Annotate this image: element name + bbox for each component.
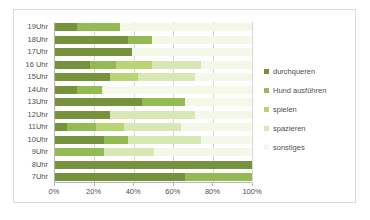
bar-segment — [55, 111, 110, 119]
y-axis-tick-label: 11Uhr — [14, 123, 52, 131]
bar-segment — [185, 98, 252, 106]
bar-segment — [195, 111, 252, 119]
bar-row — [55, 61, 252, 69]
x-axis-tick — [252, 183, 253, 186]
x-axis-tick-label: 80% — [205, 187, 220, 196]
bar-segment — [124, 123, 181, 131]
bar-segment — [104, 148, 153, 156]
bar-segment — [104, 136, 128, 144]
bar-row — [55, 161, 252, 169]
bar-segment — [90, 61, 116, 69]
x-axis-tick-label: 60% — [165, 187, 180, 196]
bar-segment — [201, 61, 252, 69]
bar-segment — [55, 73, 110, 81]
bar-segment — [55, 23, 77, 31]
bar-segment — [110, 73, 138, 81]
bar-segment — [55, 36, 128, 44]
x-axis-tick — [94, 183, 95, 186]
x-axis-tick-label: 0% — [49, 187, 60, 196]
x-axis-tick — [173, 183, 174, 186]
y-axis-tick-label: 14Uhr — [14, 86, 52, 94]
bar-row — [55, 98, 252, 106]
bar-segment — [55, 61, 90, 69]
bar-segment — [55, 136, 104, 144]
bar-row — [55, 123, 252, 131]
bar-segment — [96, 123, 124, 131]
y-axis-tick-label: 19Uhr — [14, 23, 52, 31]
legend-item: durchqueren — [264, 62, 356, 81]
legend-item: spielen — [264, 100, 356, 119]
legend-item-label: spielen — [273, 105, 297, 114]
bar-segment — [116, 61, 151, 69]
y-axis-tick-label: 10Uhr — [14, 136, 52, 144]
bar-segment — [128, 136, 201, 144]
bar-row — [55, 73, 252, 81]
x-axis-tick — [133, 183, 134, 186]
bar-segment — [152, 36, 252, 44]
bar-row — [55, 48, 252, 56]
bar-segment — [77, 86, 103, 94]
y-axis-category-labels: 19Uhr18Uhr17Uhr16 Uhr15Uhr14Uhr13Uhr12Uh… — [14, 22, 52, 182]
bar-segment — [185, 173, 252, 181]
bar-segment — [77, 23, 120, 31]
y-axis-tick-label: 18Uhr — [14, 36, 52, 44]
bar-segment — [138, 73, 195, 81]
bar-segment — [67, 123, 97, 131]
bar-segment — [132, 48, 252, 56]
bar-row — [55, 86, 252, 94]
legend-swatch-icon — [264, 107, 269, 112]
bar-segment — [55, 173, 185, 181]
bar-segment — [201, 136, 252, 144]
y-axis-tick-label: 13Uhr — [14, 98, 52, 106]
legend-item: spazieren — [264, 119, 356, 138]
bar-segment — [102, 86, 252, 94]
bar-segment — [55, 148, 104, 156]
y-axis-tick-label: 16 Uhr — [14, 61, 52, 69]
bar-row — [55, 111, 252, 119]
bar-segment — [55, 161, 252, 169]
x-axis-tick — [212, 183, 213, 186]
x-axis: 0%20%40%60%80%100% — [54, 182, 252, 197]
legend-swatch-icon — [264, 126, 269, 131]
y-axis-tick-label: 15Uhr — [14, 73, 52, 81]
chart-frame: 19Uhr18Uhr17Uhr16 Uhr15Uhr14Uhr13Uhr12Uh… — [13, 9, 356, 203]
bar-segment — [55, 48, 132, 56]
y-axis-tick-label: 12Uhr — [14, 111, 52, 119]
legend-item: Hund ausführen — [264, 81, 356, 100]
bar-row — [55, 36, 252, 44]
bar-segment — [128, 36, 152, 44]
bar-row — [55, 173, 252, 181]
plot-area — [54, 22, 252, 182]
y-axis-tick-label: 8Uhr — [14, 161, 52, 169]
legend-item-label: Hund ausführen — [273, 86, 326, 95]
bar-segment — [142, 98, 185, 106]
bar-segment — [55, 98, 142, 106]
x-axis-tick-label: 20% — [86, 187, 101, 196]
legend-item-label: spazieren — [273, 124, 306, 133]
legend: durchquerenHund ausführenspielenspaziere… — [264, 62, 356, 157]
y-axis-tick-label: 7Uhr — [14, 173, 52, 181]
bar-segment — [181, 123, 252, 131]
legend-swatch-icon — [264, 88, 269, 93]
plot-wrapper — [54, 22, 252, 182]
y-axis-tick-label: 17Uhr — [14, 48, 52, 56]
bar-segment — [55, 123, 67, 131]
legend-item-label: durchqueren — [273, 67, 315, 76]
legend-item: sonstiges — [264, 138, 356, 157]
x-axis-tick — [54, 183, 55, 186]
bar-segment — [152, 61, 201, 69]
bar-segment — [154, 148, 253, 156]
legend-item-label: sonstiges — [273, 143, 305, 152]
y-axis-tick-label: 9Uhr — [14, 148, 52, 156]
bar-segment — [120, 23, 252, 31]
legend-swatch-icon — [264, 145, 269, 150]
bar-row — [55, 148, 252, 156]
bar-row — [55, 136, 252, 144]
x-axis-tick-label: 40% — [126, 187, 141, 196]
bar-row — [55, 23, 252, 31]
bar-segment — [195, 73, 252, 81]
stacked-bars — [55, 22, 252, 182]
bar-segment — [110, 111, 195, 119]
gridline — [252, 22, 253, 182]
legend-swatch-icon — [264, 69, 269, 74]
